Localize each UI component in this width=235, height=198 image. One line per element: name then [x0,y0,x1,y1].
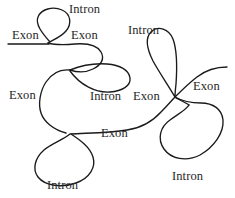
label-exon-top-middle: Exon [71,29,98,42]
label-exon-left-top: Exon [12,29,39,42]
exon-intron-diagram: IntronExonExonIntronExonIntronExonExonEx… [0,0,235,198]
strand-intron-loop-center [70,64,130,92]
label-intron-top-right: Intron [128,24,159,37]
strand-intron-loop-top-right [147,28,176,97]
label-intron-top-left: Intron [69,3,100,16]
label-intron-center: Intron [90,90,121,103]
label-intron-bottom-right: Intron [172,170,203,183]
strand-intron-loop-top-left [37,8,69,43]
label-exon-right: Exon [193,80,220,93]
strand-intron-loop-bottom-right [160,97,223,159]
label-exon-left-middle: Exon [9,89,36,102]
label-exon-bottom-middle: Exon [101,127,128,140]
strand-exon-left-middle [40,70,70,133]
label-exon-junction: Exon [133,90,160,103]
label-intron-bottom-left: Intron [47,179,78,192]
